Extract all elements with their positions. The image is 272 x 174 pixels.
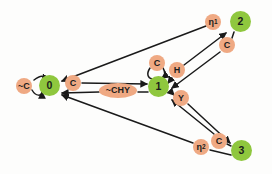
- edge-label-not-chy-1-to-0[interactable]: ~CHY: [99, 83, 137, 98]
- state-node-1[interactable]: 1: [148, 76, 169, 97]
- edge-3-to-c: [227, 144, 231, 146]
- state-node-3-label: 3: [239, 145, 245, 156]
- edge-label-c-self-2-text: C: [224, 41, 231, 50]
- edge-label-eta2-subscript: 2: [202, 144, 206, 151]
- edge-label-not-c-self-0-text: ~C: [18, 82, 30, 91]
- state-node-0-label: 0: [47, 80, 53, 91]
- edge-label-y-1-to-3-text: Y: [178, 94, 184, 103]
- edge-2-to-c: [232, 32, 234, 38]
- edge-label-h-1-to-2[interactable]: H: [169, 62, 185, 78]
- edge-label-c-self-3-text: C: [216, 137, 223, 146]
- edge-label-c-self-2[interactable]: C: [219, 37, 235, 53]
- edge-1-to-2: [168, 78, 172, 83]
- state-node-2-label: 2: [238, 16, 244, 27]
- state-node-2[interactable]: 2: [230, 11, 251, 32]
- edge-3-to-eta2: [210, 150, 231, 155]
- edge-label-c-self-1-text: C: [154, 59, 161, 68]
- edge-label-c-self-1[interactable]: C: [149, 55, 165, 71]
- edge-label-eta1-subscript: 1: [214, 19, 218, 26]
- edge-label-eta1-2-to-0[interactable]: η1: [205, 14, 221, 30]
- state-node-1-label: 1: [156, 81, 162, 92]
- edge-1-to-0-left: [62, 92, 99, 93]
- state-diagram: 0 1 2 3 ~C C ~CHY C H Y η1 C η2 C: [0, 0, 272, 174]
- edge-label-h-1-to-2-text: H: [174, 66, 181, 75]
- edge-label-not-chy-1-to-0-text: ~CHY: [106, 86, 130, 95]
- state-node-0[interactable]: 0: [39, 75, 60, 96]
- edge-label-c-0-to-1-text: C: [70, 79, 77, 88]
- edge-label-c-0-to-1[interactable]: C: [65, 75, 81, 91]
- edge-label-not-c-self-0[interactable]: ~C: [16, 78, 32, 94]
- edge-label-eta2-3-to-0[interactable]: η2: [193, 139, 209, 155]
- edge-label-y-1-to-3[interactable]: Y: [173, 90, 189, 106]
- state-node-3[interactable]: 3: [231, 140, 252, 161]
- edge-label-c-self-3[interactable]: C: [211, 133, 227, 149]
